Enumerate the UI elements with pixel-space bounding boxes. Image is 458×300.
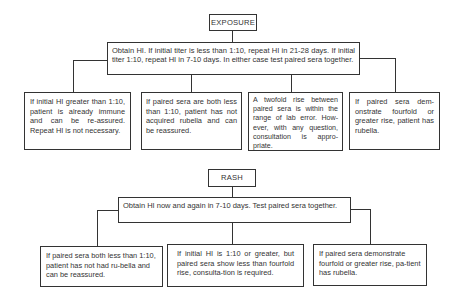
exposure-title: EXPOSURE [211,18,255,28]
connector-exposure-mid2 [291,75,292,92]
rash-title: RASH [221,173,243,183]
rash-title-box: RASH [208,169,256,187]
connector-exposure-right-h [360,58,396,59]
exposure-outcome-not-acquired: If paired sera are both less than 1:10, … [141,92,242,150]
rash-outcome-rubella: If paired sera demonstrate fourfold or g… [313,244,427,286]
connector-exposure-left-h [73,60,107,61]
connector-rash-right-h [351,209,371,210]
connector-exposure-left-v [73,60,74,92]
rash-outcome-2-text: If initial HI is 1:10 or greater, but pa… [177,249,294,277]
rash-outcome-consultation: If initial HI is 1:10 or greater, but pa… [167,244,304,287]
connector-rash-left-v [97,210,98,246]
rash-instruction-box: Obtain HI now and again in 7-10 days. Te… [118,197,351,223]
exposure-instruction: Obtain HI. If initial titer is less than… [112,46,355,64]
exposure-instruction-box: Obtain HI. If initial titer is less than… [107,42,360,75]
exposure-outcome-1-text: If initial HI greater than 1:10, patient… [30,97,125,135]
exposure-outcome-4-text: If paired sera dem-onstrate fourfold or … [355,97,434,135]
rash-outcome-not-had: If paired sera both less than 1:10, pati… [40,246,163,287]
exposure-outcome-rubella: If paired sera dem-onstrate fourfold or … [349,92,440,150]
connector-exposure-mid1 [191,75,192,92]
connector-rash-left-h [97,210,118,211]
exposure-outcome-immune: If initial HI greater than 1:10, patient… [24,92,131,150]
exposure-outcome-2-text: If paired sera are both less than 1:10, … [146,97,237,135]
connector-exposure-title [232,31,233,42]
connector-rash-mid [232,223,233,244]
rash-outcome-3-text: If paired sera demonstrate fourfold or g… [319,249,420,277]
exposure-outcome-twofold: A twofold rise between paired sera is wi… [248,92,343,151]
exposure-outcome-3-text: A twofold rise between paired sera is wi… [253,96,338,150]
connector-exposure-right-v [395,58,396,92]
rash-instruction: Obtain HI now and again in 7-10 days. Te… [123,201,337,210]
rash-outcome-1-text: If paired sera both less than 1:10, pati… [46,251,156,279]
exposure-title-box: EXPOSURE [209,14,257,31]
connector-rash-title [232,187,233,197]
connector-rash-right-v [370,209,371,244]
